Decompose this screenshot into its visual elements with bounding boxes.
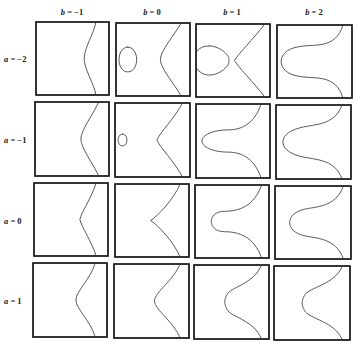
panel-frame — [114, 264, 189, 338]
panel-a1-b0 — [35, 102, 109, 176]
label-value: 0 — [17, 216, 21, 226]
panel-a2-b2 — [195, 185, 269, 258]
label-value: −1 — [74, 7, 83, 17]
label-equals: = — [8, 216, 17, 226]
label-value: 0 — [157, 7, 161, 17]
column-label-b-1: b = 0 — [143, 7, 161, 17]
panel-a3-b0 — [33, 263, 107, 337]
panel-a2-b0 — [34, 183, 108, 256]
label-equals: = — [8, 296, 17, 306]
panel-a2-b3 — [275, 186, 351, 259]
label-value: 2 — [319, 7, 323, 17]
panel-frame — [35, 102, 109, 176]
panel-a3-b3 — [274, 266, 350, 340]
panel-a0-b0 — [28, 22, 109, 95]
contour-grid-figure — [0, 0, 357, 343]
label-equals: = — [227, 7, 236, 17]
panel-frame — [34, 183, 108, 256]
column-label-b-2: b = 1 — [223, 7, 241, 17]
column-label-b-0: b = −1 — [61, 7, 83, 17]
row-label-a-2: a = 0 — [4, 216, 22, 226]
panel-a0-b2 — [194, 24, 270, 97]
panel-frame — [194, 265, 269, 339]
label-equals: = — [8, 54, 17, 64]
row-label-a-0: a = −2 — [4, 54, 26, 64]
panel-frame — [33, 263, 107, 337]
label-value: −1 — [17, 135, 26, 145]
panel-grid — [28, 22, 352, 340]
panel-frame — [196, 104, 270, 178]
panel-frame — [115, 103, 190, 177]
label-value: −2 — [17, 54, 26, 64]
panel-frame — [196, 24, 270, 97]
row-label-a-1: a = −1 — [4, 135, 26, 145]
panel-a1-b2 — [196, 104, 270, 178]
panel-a0-b1 — [116, 23, 190, 96]
label-equals: = — [309, 7, 318, 17]
label-equals: = — [8, 135, 17, 145]
label-equals: = — [147, 7, 156, 17]
panel-frame — [195, 185, 269, 258]
label-equals: = — [65, 7, 74, 17]
panel-a1-b3 — [276, 105, 351, 179]
panel-frame — [275, 186, 351, 259]
panel-frame — [277, 25, 352, 98]
label-value: 1 — [237, 7, 241, 17]
panel-a3-b1 — [114, 264, 189, 338]
panel-frame — [276, 105, 351, 179]
column-label-b-3: b = 2 — [305, 7, 323, 17]
label-value: 1 — [17, 296, 21, 306]
panel-a0-b3 — [277, 25, 352, 98]
panel-a2-b1 — [115, 184, 189, 257]
panel-frame — [274, 266, 350, 340]
panel-frame — [116, 23, 190, 96]
panel-a1-b1 — [115, 103, 190, 177]
panel-frame — [36, 22, 109, 95]
panel-a3-b2 — [194, 265, 269, 339]
row-label-a-3: a = 1 — [4, 296, 22, 306]
panel-frame — [115, 184, 189, 257]
